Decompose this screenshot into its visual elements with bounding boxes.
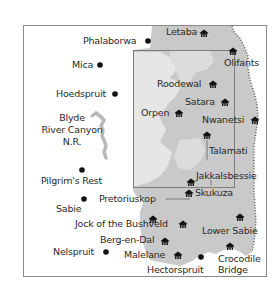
- town-dot-sabie: [81, 196, 87, 202]
- label-mica: Mica: [72, 60, 93, 70]
- town-dot-pilgrims-rest: [79, 167, 85, 173]
- label-blyde-2: River Canyon: [32, 125, 112, 135]
- label-berg-en-dal: Berg-en-Dal: [100, 235, 154, 245]
- label-blyde-1: Blyde: [52, 113, 92, 123]
- town-dot-phalaborwa: [145, 38, 151, 44]
- label-satara: Satara: [185, 97, 215, 107]
- label-pilgrims-rest: Pilgrim's Rest: [41, 176, 102, 186]
- label-hoedspruit: Hoedspruit: [56, 89, 106, 99]
- town-dot-hectorspruit: [198, 254, 204, 260]
- label-roodewal: Roodewal: [157, 79, 201, 89]
- label-sabie: Sabie: [56, 204, 81, 214]
- label-phalaborwa: Phalaborwa: [83, 36, 136, 46]
- label-orpen: Orpen: [141, 108, 169, 118]
- label-blyde-3: N.R.: [52, 137, 92, 147]
- label-nwanetsi: Nwanetsi: [202, 115, 244, 125]
- town-dot-mica: [97, 62, 103, 68]
- town-dot-nelspruit: [103, 249, 109, 255]
- label-crocodile-bridge-2: Bridge: [218, 265, 248, 275]
- label-malelane: Malelane: [124, 250, 165, 260]
- label-jock-of-the-bushveld: Jock of the Bushveld: [75, 219, 168, 229]
- label-pretoriuskop: Pretoriuskop: [99, 194, 156, 204]
- label-crocodile-bridge-1: Crocodile: [218, 254, 261, 264]
- town-dot-hoedspruit: [112, 91, 118, 97]
- label-jakkalsbessie: Jakkalsbessie: [196, 171, 257, 181]
- label-olifants: Olifants: [224, 58, 259, 68]
- label-talamati: Talamati: [209, 146, 247, 156]
- label-letaba: Letaba: [166, 27, 197, 37]
- label-hectorspruit: Hectorspruit: [147, 265, 204, 275]
- label-lower-sabie: Lower Sabie: [202, 226, 258, 236]
- label-skukuza: Skukuza: [195, 188, 233, 198]
- label-nelspruit: Nelspruit: [53, 247, 94, 257]
